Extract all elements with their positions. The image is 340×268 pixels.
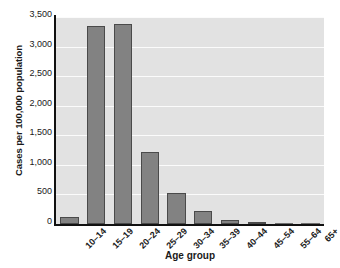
bar[interactable] [141, 152, 159, 224]
x-tick-label: 45–54 [271, 226, 296, 251]
bar-slot [136, 17, 163, 224]
y-tick-label: 3,500 [14, 9, 52, 19]
bar-slot [297, 17, 324, 224]
plot-area [56, 17, 324, 224]
y-tick-label: 0 [14, 216, 52, 226]
bar-slot [163, 17, 190, 224]
bar[interactable] [167, 193, 185, 224]
x-tick-label: 15–19 [111, 226, 136, 251]
x-tick-label: 65+ [322, 226, 340, 244]
y-tick-label: 1,000 [14, 157, 52, 167]
bar-series [56, 17, 324, 224]
bar[interactable] [60, 217, 78, 224]
x-axis-title: Age group [56, 250, 324, 261]
bar-slot [244, 17, 271, 224]
x-tick-label: 40–44 [245, 226, 270, 251]
bar[interactable] [114, 24, 132, 224]
y-tick-label: 3,000 [14, 39, 52, 49]
x-tick-label: 20–24 [137, 226, 162, 251]
x-tick-label: 25–29 [164, 226, 189, 251]
y-axis-tick-labels: 05001,0001,5002,0002,5003,0003,500 [14, 14, 52, 226]
x-tick-label: 30–34 [191, 226, 216, 251]
x-tick-label: 55–64 [298, 226, 323, 251]
y-tick-label: 1,500 [14, 127, 52, 137]
bar-slot [217, 17, 244, 224]
bar-slot [110, 17, 137, 224]
bar[interactable] [194, 211, 212, 224]
x-tick-label: 10–14 [84, 226, 109, 251]
bar-slot [56, 17, 83, 224]
bar-slot [83, 17, 110, 224]
y-tick-label: 500 [14, 186, 52, 196]
bar[interactable] [87, 26, 105, 224]
y-axis-line [54, 15, 56, 226]
x-tick-label: 35–39 [218, 226, 243, 251]
bar-slot [190, 17, 217, 224]
bar-slot [270, 17, 297, 224]
y-tick-label: 2,000 [14, 98, 52, 108]
y-tick-label: 2,500 [14, 68, 52, 78]
